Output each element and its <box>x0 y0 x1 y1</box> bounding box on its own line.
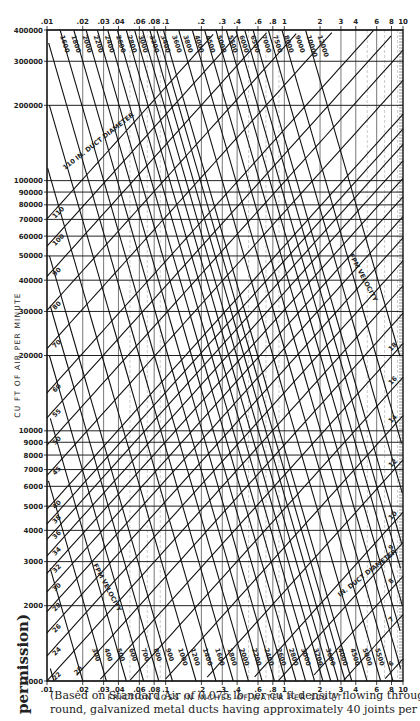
diameter-value-label: 16 <box>387 374 399 386</box>
x-tick-label-top: .02 <box>77 18 90 26</box>
diameter-value-label: 32 <box>51 563 63 575</box>
diameter-line <box>47 50 403 445</box>
diameter-line <box>100 343 403 679</box>
diameter-value-label: 50 <box>51 434 63 446</box>
y-tick-label: 3000 <box>24 558 44 566</box>
y-tick-label: 40000 <box>19 277 43 285</box>
y-tick-label: 100000 <box>14 177 43 185</box>
x-tick-label-top: 6 <box>374 18 379 26</box>
y-tick-label: 4000 <box>24 527 44 535</box>
y-tick-label: 200000 <box>14 102 43 110</box>
diameter-value-label: 70 <box>51 338 63 350</box>
x-tick-label-top: 8 <box>389 18 394 26</box>
diameter-value-label: 28 <box>51 601 63 613</box>
diameter-value-label: 34 <box>51 545 63 557</box>
x-tick-label-top: .8 <box>269 18 277 26</box>
y-tick-label: 80000 <box>19 201 43 209</box>
x-tick-label-top: .03 <box>97 18 110 26</box>
y-tick-label: 5000 <box>24 503 44 511</box>
chart-caption: (Based on Standard Air of 0.075 lb per c… <box>50 689 420 717</box>
diameter-line <box>47 36 391 418</box>
duct-friction-chart: .01.02.03.04.06.08.1.2.3.4.6.812346810 .… <box>0 0 420 721</box>
x-tick-label-top: .4 <box>233 18 241 26</box>
y-tick-label: 9000 <box>24 439 44 447</box>
diameter-value-label: 12 <box>387 457 399 469</box>
velocity-line <box>49 356 143 681</box>
diameter-line <box>47 178 403 573</box>
diameter-value-label: 10 <box>387 509 399 521</box>
diameter-line <box>130 377 403 680</box>
diameter-line <box>47 34 296 311</box>
diameter-value-label: 24 <box>51 645 63 657</box>
y-tick-label: 400000 <box>14 27 43 35</box>
y-tick-label: 8000 <box>24 452 44 460</box>
x-tick-label-top: .04 <box>112 18 125 26</box>
diameter-value-label: 30 <box>51 581 63 593</box>
diameter-value-label: 45 <box>51 464 63 476</box>
velocity-value-label-bottom: 4500 <box>348 647 361 667</box>
x-tick-label-top: .6 <box>254 18 262 26</box>
diameter-value-label: 80 <box>51 299 63 311</box>
velocity-line <box>268 31 402 494</box>
y-tick-label: 20000 <box>19 352 43 360</box>
velocity-line <box>49 43 234 681</box>
diameter-value-label: 110 <box>51 205 67 221</box>
x-tick-label-top: .01 <box>41 18 54 26</box>
velocity-value-label-bottom: 2600 <box>275 647 288 667</box>
x-tick-label-top: 1 <box>282 18 287 26</box>
x-tick-label-top: 2 <box>318 18 323 26</box>
x-tick-label-top: .06 <box>133 18 146 26</box>
caption-line-1: (Based on Standard Air of 0.075 lb per c… <box>50 689 420 703</box>
caption-line-2: round, galvanized metal ducts having app… <box>50 703 420 717</box>
y-tick-label: 60000 <box>19 233 43 241</box>
x-tick-label-top: .1 <box>162 18 170 26</box>
y-tick-label: 70000 <box>19 216 43 224</box>
side-note: permission) <box>14 604 32 714</box>
velocity-line <box>226 31 400 631</box>
diameter-line <box>47 36 237 247</box>
diameter-value-label: 100 <box>51 232 67 248</box>
y-tick-label: 7000 <box>24 466 44 474</box>
velocity-value-label-bottom: 1400 <box>201 647 214 667</box>
diameter-value-label: 55 <box>51 407 63 419</box>
velocity-value-label-bottom: 2000 <box>238 647 251 667</box>
x-tick-label-top: 3 <box>339 18 344 26</box>
velocity-value-label-bottom: 1200 <box>188 647 201 667</box>
x-tick-label-top: 10 <box>398 18 408 26</box>
y-tick-label: 6000 <box>24 483 44 491</box>
diameter-value-label: 18 <box>387 340 399 352</box>
velocity-value-label-top: 1600 <box>58 34 71 54</box>
velocity-value-label-bottom: 3200 <box>311 647 324 667</box>
diameter-line <box>47 31 373 393</box>
diameter-value-label: 7 <box>387 615 396 624</box>
diameter-line <box>47 129 403 524</box>
y-tick-label: 30000 <box>19 308 43 316</box>
velocity-value-label-bottom: 400 <box>102 647 114 663</box>
velocity-value-label-bottom: 2400 <box>262 647 275 667</box>
diameter-value-label: 60 <box>51 382 63 394</box>
velocity-value-label-bottom: 2200 <box>250 647 263 667</box>
y-axis-title: CU FT OF AIR PER MINUTE <box>13 292 22 417</box>
x-tick-label-top: .2 <box>198 18 206 26</box>
velocity-line <box>50 418 126 681</box>
x-tick-label-top: .3 <box>219 18 227 26</box>
y-tick-label: 10000 <box>19 427 43 435</box>
diameter-value-label: 14 <box>387 413 399 425</box>
y-tick-label: 90000 <box>19 189 43 197</box>
y-tick-label: 50000 <box>19 252 43 260</box>
diameter-value-label: 26 <box>51 622 63 634</box>
y-tick-label: 300000 <box>14 58 43 66</box>
x-tick-label-top: .08 <box>148 18 161 26</box>
x-tick-label-top: 4 <box>353 18 358 26</box>
